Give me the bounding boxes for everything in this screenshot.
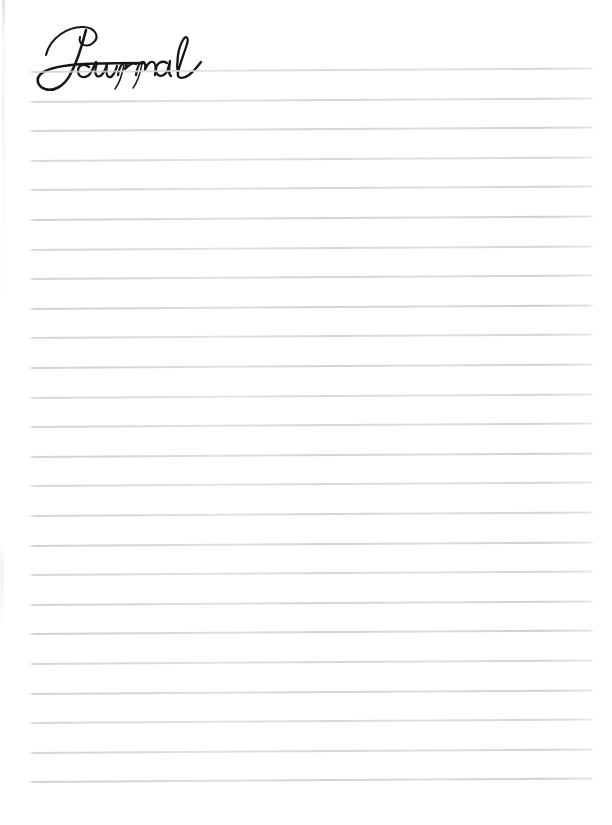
ruled-line — [28, 719, 595, 724]
page-title — [26, 18, 216, 100]
ruled-line — [28, 245, 595, 250]
journal-script-icon — [26, 18, 216, 100]
ruled-line — [28, 364, 595, 369]
ruled-line — [28, 660, 595, 665]
ruled-line — [28, 512, 595, 517]
ruled-line — [28, 778, 595, 783]
ruled-line — [28, 748, 595, 753]
ruled-line — [28, 600, 595, 605]
ruled-line — [28, 393, 595, 398]
ruled-line — [28, 156, 595, 161]
ruled-line — [28, 186, 595, 191]
ruled-line — [28, 275, 595, 280]
ruled-line — [28, 571, 595, 576]
ruled-line — [28, 304, 595, 309]
ruled-line — [28, 334, 595, 339]
ruled-line — [28, 482, 595, 487]
ruled-line — [28, 452, 595, 457]
ruled-line — [28, 630, 595, 635]
scan-edge-artifact-lower — [0, 540, 4, 630]
scan-edge-artifact — [2, 0, 5, 330]
ruled-line — [28, 216, 595, 221]
ruled-line — [28, 689, 595, 694]
journal-page — [0, 0, 612, 825]
ruled-line — [28, 127, 595, 132]
ruled-line — [28, 541, 595, 546]
ruled-line — [28, 423, 595, 428]
